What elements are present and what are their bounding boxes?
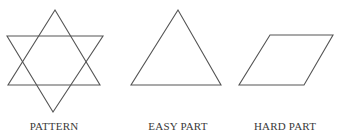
easy-part-label: EASY PART [148, 120, 207, 132]
hard-part-label: HARD PART [254, 120, 316, 132]
pattern-label: PATTERN [30, 120, 79, 132]
hard-part-parallelogram [239, 35, 333, 85]
figure-canvas [0, 0, 338, 138]
pattern-triangle-up [8, 10, 100, 85]
easy-part-triangle [131, 10, 221, 85]
pattern-triangle-down [7, 36, 103, 112]
pattern-hexagram [7, 10, 103, 112]
